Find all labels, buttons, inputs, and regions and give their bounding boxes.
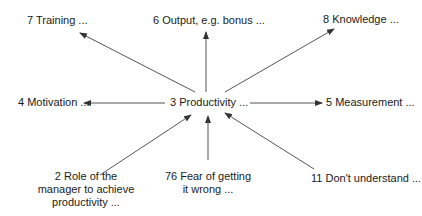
- node-fear-line: 76 Fear of getting: [158, 170, 258, 183]
- node-role-line: manager to achieve: [26, 183, 146, 196]
- arrow-to-knowledge: [225, 29, 334, 92]
- arrow-from-dont-understand: [225, 113, 314, 169]
- node-fear: 76 Fear of getting it wrong ...: [158, 170, 258, 196]
- node-role: 2 Role of the manager to achieve product…: [26, 170, 146, 209]
- node-measurement: 5 Measurement ...: [326, 96, 415, 109]
- node-productivity: 3 Productivity ...: [170, 96, 248, 109]
- node-motivation: 4 Motivation ...: [18, 96, 90, 109]
- node-role-line: 2 Role of the: [26, 170, 146, 183]
- node-knowledge: 8 Knowledge ...: [323, 13, 399, 26]
- node-fear-line: it wrong ...: [158, 183, 258, 196]
- arrow-from-role: [100, 115, 191, 175]
- node-training: 7 Training ...: [27, 14, 88, 27]
- node-output: 6 Output, e.g. bonus ...: [153, 14, 265, 27]
- node-role-line: productivity ...: [26, 196, 146, 209]
- arrow-to-training: [80, 33, 195, 92]
- node-dont-understand: 11 Don't understand ...: [311, 172, 421, 185]
